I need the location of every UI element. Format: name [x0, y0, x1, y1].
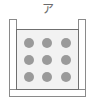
particle-r3c2 — [42, 72, 52, 82]
particle-r3c3 — [61, 72, 71, 82]
container-right-wall — [78, 19, 86, 97]
particle-r1c1 — [24, 38, 34, 48]
container-bottom-wall — [9, 89, 86, 97]
particle-r2c1 — [24, 55, 34, 65]
figure-label: ア — [0, 2, 95, 16]
particle-r1c2 — [42, 38, 52, 48]
particle-r1c3 — [61, 38, 71, 48]
particle-r3c1 — [24, 72, 34, 82]
inner-content-box — [16, 29, 79, 90]
particle-grid — [17, 30, 78, 89]
diagram-container-with-particles: ア — [0, 0, 95, 109]
particle-r2c2 — [42, 55, 52, 65]
particle-r2c3 — [61, 55, 71, 65]
